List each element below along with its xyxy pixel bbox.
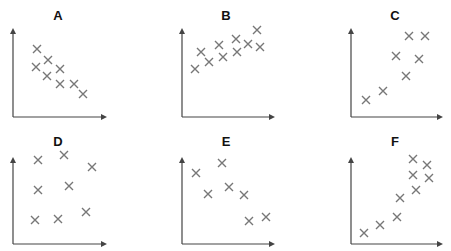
x-marker-icon bbox=[82, 208, 90, 216]
x-marker-icon bbox=[34, 156, 42, 164]
panel-a: A bbox=[13, 8, 104, 117]
x-marker-icon bbox=[33, 45, 41, 53]
x-marker-icon bbox=[60, 151, 68, 159]
points-a bbox=[32, 45, 87, 98]
x-marker-icon bbox=[204, 190, 212, 198]
scatter-figure: A B C D E F bbox=[0, 0, 451, 251]
x-marker-icon bbox=[191, 65, 199, 73]
x-marker-icon bbox=[256, 43, 264, 51]
x-marker-icon bbox=[205, 58, 213, 66]
x-marker-icon bbox=[425, 174, 433, 182]
x-marker-icon bbox=[405, 32, 413, 40]
x-marker-icon bbox=[215, 41, 223, 49]
points-f bbox=[360, 155, 433, 237]
x-marker-icon bbox=[412, 186, 420, 194]
x-marker-icon bbox=[262, 213, 270, 221]
panel-e: E bbox=[182, 134, 272, 244]
panel-title-b: B bbox=[221, 8, 230, 23]
x-marker-icon bbox=[415, 55, 423, 63]
axes-a bbox=[13, 31, 104, 117]
x-marker-icon bbox=[192, 169, 200, 177]
x-marker-icon bbox=[421, 32, 429, 40]
axes-c bbox=[351, 31, 440, 117]
points-d bbox=[31, 151, 96, 224]
x-marker-icon bbox=[88, 163, 96, 171]
x-marker-icon bbox=[233, 48, 241, 56]
x-marker-icon bbox=[393, 213, 401, 221]
x-marker-icon bbox=[253, 26, 261, 34]
panel-f: F bbox=[351, 134, 440, 244]
x-marker-icon bbox=[31, 216, 39, 224]
x-marker-icon bbox=[54, 215, 62, 223]
x-marker-icon bbox=[56, 65, 64, 73]
axes-d bbox=[13, 160, 104, 244]
x-marker-icon bbox=[44, 56, 52, 64]
x-marker-icon bbox=[402, 72, 410, 80]
x-marker-icon bbox=[244, 40, 252, 48]
x-marker-icon bbox=[240, 191, 248, 199]
x-marker-icon bbox=[34, 186, 42, 194]
x-marker-icon bbox=[65, 182, 73, 190]
x-marker-icon bbox=[360, 229, 368, 237]
panel-c: C bbox=[351, 8, 440, 117]
panel-title-e: E bbox=[222, 134, 231, 149]
x-marker-icon bbox=[423, 161, 431, 169]
panel-d: D bbox=[13, 134, 104, 244]
points-e bbox=[192, 159, 270, 225]
x-marker-icon bbox=[379, 87, 387, 95]
x-marker-icon bbox=[56, 80, 64, 88]
axes-b bbox=[182, 31, 272, 117]
axes-f bbox=[351, 160, 440, 244]
x-marker-icon bbox=[32, 63, 40, 71]
x-marker-icon bbox=[225, 183, 233, 191]
x-marker-icon bbox=[396, 194, 404, 202]
x-marker-icon bbox=[70, 80, 78, 88]
x-marker-icon bbox=[409, 171, 417, 179]
points-b bbox=[191, 26, 264, 73]
x-marker-icon bbox=[197, 48, 205, 56]
points-c bbox=[362, 32, 429, 104]
x-marker-icon bbox=[43, 72, 51, 80]
panel-title-c: C bbox=[390, 8, 400, 23]
x-marker-icon bbox=[218, 159, 226, 167]
panel-title-f: F bbox=[391, 134, 399, 149]
x-marker-icon bbox=[245, 217, 253, 225]
x-marker-icon bbox=[219, 53, 227, 61]
panel-b: B bbox=[182, 8, 272, 117]
x-marker-icon bbox=[79, 90, 87, 98]
x-marker-icon bbox=[376, 221, 384, 229]
x-marker-icon bbox=[362, 96, 370, 104]
panel-title-a: A bbox=[53, 8, 63, 23]
x-marker-icon bbox=[392, 52, 400, 60]
x-marker-icon bbox=[409, 155, 417, 163]
x-marker-icon bbox=[232, 35, 240, 43]
panel-title-d: D bbox=[53, 134, 62, 149]
